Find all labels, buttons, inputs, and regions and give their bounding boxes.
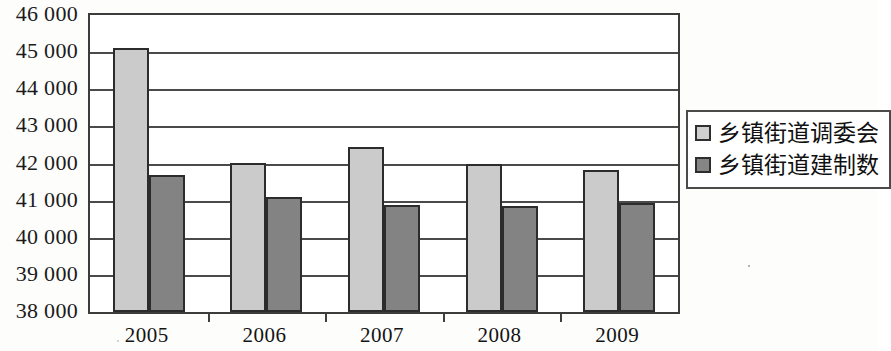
x-tick-label-2009: 2009 <box>558 322 676 348</box>
legend-entry-0: 乡镇街道调委会 <box>695 117 883 149</box>
bar-2006-series-1 <box>266 197 302 312</box>
legend-swatch-icon <box>695 157 711 173</box>
bar-2009-series-1 <box>619 203 655 312</box>
bar-2005-series-0 <box>113 48 149 312</box>
legend-label: 乡镇街道调委会 <box>718 120 879 146</box>
legend: 乡镇街道调委会乡镇街道建制数 <box>686 110 891 189</box>
y-tick-label: 44 000 <box>16 77 78 99</box>
y-tick-label: 42 000 <box>16 152 78 174</box>
x-tick-label-2007: 2007 <box>323 322 441 348</box>
x-axis: 20052006200720082009 <box>88 322 680 351</box>
x-axis-tick <box>325 314 327 322</box>
bar-2007-series-0 <box>348 147 384 312</box>
y-tick-label: 41 000 <box>16 189 78 211</box>
bar-2005-series-1 <box>149 175 185 312</box>
legend-label: 乡镇街道建制数 <box>718 152 879 178</box>
x-axis-tick <box>443 314 445 322</box>
scan-speckle <box>117 340 119 342</box>
bar-2009-series-0 <box>583 170 619 312</box>
legend-entry-1: 乡镇街道建制数 <box>695 149 883 181</box>
scan-speckle <box>748 265 750 267</box>
bars-layer <box>90 15 678 312</box>
x-tick-label-2008: 2008 <box>441 322 559 348</box>
x-tick-label-2006: 2006 <box>206 322 324 348</box>
x-tick-label-2005: 2005 <box>88 322 206 348</box>
y-tick-label: 45 000 <box>16 40 78 62</box>
y-tick-label: 40 000 <box>16 226 78 248</box>
x-axis-tick <box>208 314 210 322</box>
y-axis: 46 00045 00044 00043 00042 00041 00040 0… <box>0 0 84 330</box>
y-tick-label: 39 000 <box>16 263 78 285</box>
plot-area <box>88 13 680 314</box>
y-tick-label: 38 000 <box>16 300 78 322</box>
bar-2008-series-1 <box>502 206 538 312</box>
y-tick-label: 43 000 <box>16 114 78 136</box>
bar-2008-series-0 <box>466 164 502 313</box>
x-axis-tick <box>560 314 562 322</box>
bar-2007-series-1 <box>384 205 420 312</box>
y-tick-label: 46 000 <box>16 3 78 25</box>
legend-swatch-icon <box>695 125 711 141</box>
bar-2006-series-0 <box>230 163 266 312</box>
